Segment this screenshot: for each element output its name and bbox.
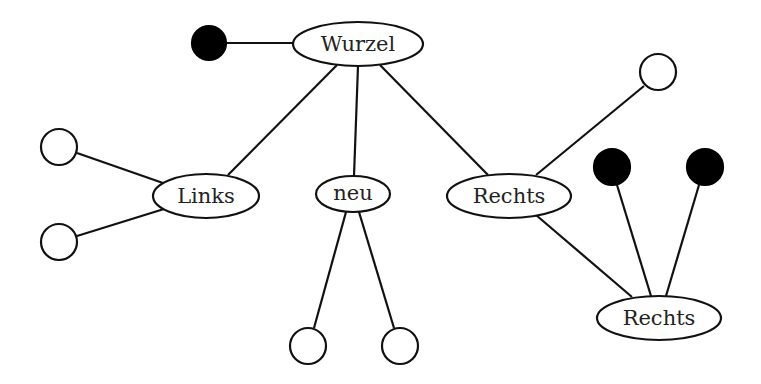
edge-neu-to-leaf-2 [359, 212, 394, 328]
empty-leaf-circle-icon [640, 54, 676, 90]
node-label: neu [333, 181, 372, 205]
edge-root-to-rechts [380, 65, 488, 175]
node-label: Rechts [473, 184, 546, 208]
empty-leaf-circle-icon [41, 129, 77, 165]
filled-leaf-circle-icon [594, 149, 630, 185]
filled-leaf-circle-icon [192, 26, 226, 60]
empty-leaf-circle-icon [41, 224, 77, 260]
edge-links-to-leaf-2 [77, 209, 164, 236]
node-label: Wurzel [321, 32, 396, 56]
node-rechts: Rechts [447, 174, 571, 218]
empty-leaf-circle-icon [382, 328, 418, 364]
node-label: Links [177, 184, 235, 208]
edge-rechts-to-rechts-child [536, 215, 632, 297]
edge-links-to-leaf-1 [77, 153, 163, 183]
node-rechts-child: Rechts [597, 296, 721, 340]
edge-rechts-child-to-leaf-1 [617, 185, 651, 296]
filled-leaf-circle-icon [687, 149, 723, 185]
edge-root-to-links [228, 65, 337, 175]
empty-leaf-circle-icon [290, 328, 326, 364]
edge-neu-to-leaf-1 [314, 212, 346, 328]
node-neu: neu [316, 176, 390, 212]
node-links: Links [153, 174, 259, 218]
edge-rechts-child-to-leaf-2 [666, 185, 699, 296]
node-label: Rechts [623, 306, 696, 330]
node-wurzel: Wurzel [293, 22, 423, 66]
edge-root-to-neu [354, 66, 358, 176]
tree-diagram: Wurzel Links neu Rechts Rechts [0, 0, 761, 384]
